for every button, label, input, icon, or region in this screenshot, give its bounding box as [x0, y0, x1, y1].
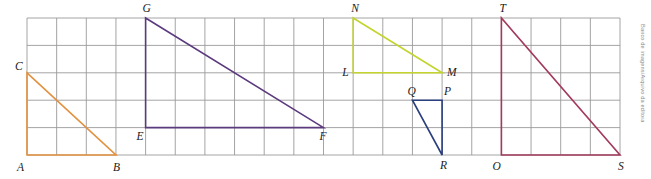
vertex-label-l: L	[341, 66, 348, 78]
vertex-label-e: E	[136, 130, 144, 142]
image-credit: Banco de imagens/Arquivo da editora	[636, 24, 650, 156]
vertex-label-r: R	[439, 159, 447, 171]
geometry-figure: ABCEFGLMNQPROST Banco de imagens/Arquivo…	[0, 0, 651, 179]
vertex-label-g: G	[143, 2, 152, 14]
vertex-label-f: F	[319, 130, 328, 142]
vertex-label-a: A	[16, 161, 25, 173]
vertex-label-q: Q	[407, 85, 416, 97]
triangle-abc	[27, 73, 116, 155]
vertex-label-o: O	[492, 160, 501, 172]
vertex-label-t: T	[499, 2, 507, 14]
figure-canvas: ABCEFGLMNQPROST	[0, 0, 651, 179]
vertex-label-p: P	[443, 85, 451, 97]
vertex-label-s: S	[618, 160, 624, 172]
vertex-label-b: B	[113, 161, 120, 173]
vertex-label-c: C	[15, 60, 23, 72]
vertex-label-n: N	[350, 2, 360, 14]
vertex-label-m: M	[446, 66, 458, 78]
